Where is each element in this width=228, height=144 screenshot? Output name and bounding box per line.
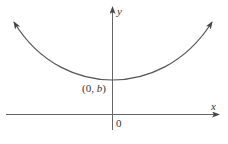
point-label-close: ) (102, 82, 106, 95)
curve-left-branch (14, 22, 113, 80)
graph-canvas: y x 0 (0, b) (0, 0, 228, 144)
curve-right-branch (113, 22, 213, 80)
x-axis-label: x (210, 100, 216, 112)
y-axis-label: y (116, 5, 122, 17)
point-label-open: (0, (82, 82, 97, 95)
point-label: (0, b) (82, 82, 106, 95)
origin-label: 0 (116, 117, 122, 129)
